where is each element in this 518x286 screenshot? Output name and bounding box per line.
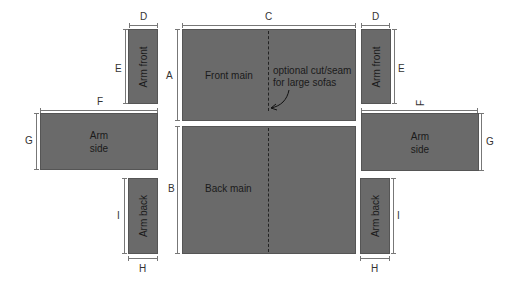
dim-label-h-left: H [139,264,146,274]
dim-line-g-left [36,113,37,170]
back-main-panel: Back main [182,126,356,254]
dim-label-b: B [168,184,175,194]
arm-side-left-label-2: side [41,143,157,155]
dim-label-c: C [265,12,272,22]
seam-line-front [268,31,269,111]
arm-side-right-label-2: side [362,144,478,156]
dim-label-e-right: E [398,64,405,74]
arm-side-left-label-1: Arm [41,130,157,142]
dim-label-h-right: H [371,264,378,274]
dim-label-d-right: D [372,12,379,22]
dim-label-g-right: G [486,137,494,147]
arm-front-left-panel: Arm front [128,29,158,104]
front-main-label: Front main [205,70,253,82]
arm-side-right-label-1: Arm [362,131,478,143]
dim-line-i-left [124,178,125,254]
seam-annotation-line1: optional cut/seam [273,65,351,77]
dim-line-g-right [481,113,482,171]
dim-line-i-right [393,178,394,254]
arm-back-left-panel: Arm back [128,178,158,254]
dim-line-h-left [128,258,158,259]
dim-line-e-left [125,29,126,104]
dim-line-b [177,126,178,254]
curved-arrow-icon [267,88,295,112]
arm-side-left-panel: Arm side [40,113,158,170]
dim-line-c [182,25,356,26]
dim-label-e-left: E [115,64,122,74]
dim-label-f-left: F [97,97,103,107]
dim-line-e-right [394,29,395,104]
dim-line-h-right [360,258,390,259]
dim-line-d-right [361,25,390,26]
dim-label-i-left: I [117,211,120,221]
dim-label-i-right: I [397,211,400,221]
dim-label-a: A [166,71,173,81]
dim-line-f-right [361,110,478,111]
dim-label-f-right: F [416,100,426,106]
dim-line-d-left [129,25,158,26]
back-main-label: Back main [205,183,252,195]
dim-label-g-left: G [25,136,33,146]
dim-line-a [177,29,178,121]
arm-back-right-label: Arm back [370,195,381,237]
arm-front-right-panel: Arm front [361,29,391,104]
dim-label-d-left: D [140,12,147,22]
arm-side-right-panel: Arm side [361,113,479,171]
front-main-panel: Front main optional cut/seam for large s… [182,29,356,121]
seam-line-back [268,128,269,252]
dim-line-f-left [40,110,158,111]
arm-front-left-label: Arm front [138,46,149,87]
arm-back-left-label: Arm back [138,195,149,237]
arm-front-right-label: Arm front [371,46,382,87]
arm-back-right-panel: Arm back [360,178,390,254]
